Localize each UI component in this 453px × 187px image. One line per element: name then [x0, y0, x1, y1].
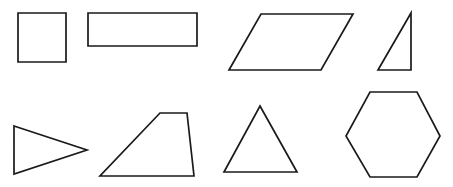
trapezoid: [100, 113, 194, 176]
square: [18, 13, 66, 62]
equilateral-triangle: [224, 106, 297, 172]
hexagon: [346, 92, 440, 177]
rectangle: [88, 13, 197, 46]
parallelogram: [229, 14, 353, 70]
shapes-svg: [0, 0, 453, 187]
right-triangle: [378, 13, 411, 70]
isosceles-triangle: [14, 126, 87, 174]
shapes-diagram: [0, 0, 453, 187]
